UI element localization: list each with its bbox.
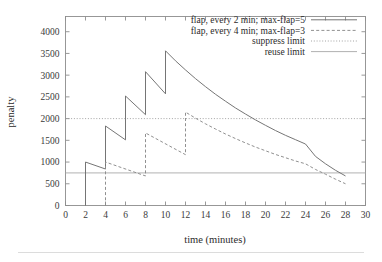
x-tick-label: 14 [201, 210, 211, 220]
y-tick-label: 1500 [41, 136, 60, 146]
legend-label-2: suppress limit [252, 36, 305, 46]
x-tick-label: 20 [261, 210, 271, 220]
y-tick-label: 3500 [41, 49, 60, 59]
x-tick-label: 28 [341, 210, 351, 220]
x-tick-label: 0 [63, 210, 68, 220]
chart-background [0, 0, 382, 262]
chart-figure: 024681012141618202224262830 050010001500… [0, 0, 382, 262]
x-tick-label: 10 [161, 210, 171, 220]
y-tick-label: 2000 [41, 114, 60, 124]
x-tick-label: 8 [143, 210, 148, 220]
legend-label-3: reuse limit [265, 47, 306, 57]
y-tick-label: 3000 [41, 71, 60, 81]
y-axis-title: penalty [5, 96, 16, 128]
y-tick-label: 500 [45, 179, 60, 189]
x-axis-title: time (minutes) [184, 234, 246, 246]
x-tick-label: 16 [221, 210, 231, 220]
x-tick-label: 4 [103, 210, 108, 220]
legend-label-0: flap, every 2 min; max-flap=5 [191, 15, 306, 25]
x-tick-label: 30 [361, 210, 371, 220]
x-tick-label: 6 [123, 210, 128, 220]
legend-label-1: flap, every 4 min; max-flap=3 [191, 26, 306, 36]
x-tick-label: 22 [281, 210, 291, 220]
penalty-vs-time-chart: 024681012141618202224262830 050010001500… [0, 0, 382, 262]
y-tick-label: 4000 [41, 27, 60, 37]
y-tick-label: 0 [55, 201, 60, 211]
x-tick-label: 24 [301, 210, 311, 220]
x-tick-label: 26 [321, 210, 331, 220]
x-tick-label: 2 [83, 210, 88, 220]
x-tick-label: 12 [181, 210, 191, 220]
x-tick-label: 18 [241, 210, 251, 220]
y-tick-label: 2500 [41, 92, 60, 102]
y-tick-label: 1000 [41, 157, 60, 167]
